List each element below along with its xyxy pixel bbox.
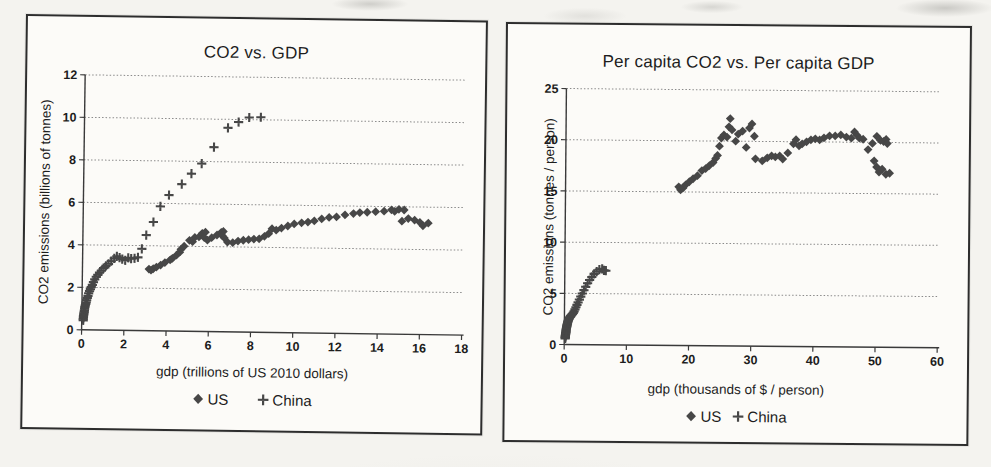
data-point	[303, 218, 312, 227]
y-tick-label: 4	[68, 238, 75, 252]
gridline	[82, 287, 462, 292]
y-tick-label: 0	[67, 323, 74, 337]
data-point	[164, 190, 173, 199]
data-point	[363, 208, 372, 217]
x-tick-label: 8	[247, 339, 254, 353]
x-tick-label: 14	[370, 341, 384, 355]
data-point	[177, 179, 186, 188]
gridline	[565, 242, 938, 245]
x-tick-label: 30	[744, 353, 758, 367]
x-tick-label: 2	[120, 337, 127, 351]
legend-item-us: US	[191, 390, 228, 408]
data-point	[380, 207, 389, 216]
data-point	[325, 213, 334, 222]
us-diamond-marker-icon	[192, 392, 205, 405]
x-tick-label: 4	[162, 338, 169, 352]
gridline	[565, 293, 938, 296]
y-tick-label: 6	[68, 196, 75, 210]
legend-label-china: China	[272, 391, 311, 409]
x-axis	[564, 345, 939, 348]
gridline	[84, 160, 464, 165]
x-tick-label: 10	[619, 352, 633, 366]
y-tick-label: 25	[544, 82, 558, 96]
data-point	[245, 113, 254, 122]
data-point	[341, 210, 350, 219]
y-tick-label: 8	[69, 153, 76, 167]
y-tick-label: 10	[63, 111, 77, 125]
y-tick-label: 10	[543, 235, 557, 249]
x-tick-label: 20	[681, 353, 695, 367]
gridline	[566, 191, 939, 194]
data-point	[197, 159, 206, 168]
gridline	[85, 117, 465, 122]
data-point	[332, 212, 341, 221]
series-china	[561, 264, 611, 343]
data-point	[400, 206, 409, 215]
x-tick-label: 50	[868, 354, 882, 368]
gridline	[566, 89, 939, 92]
y-axis	[564, 89, 566, 345]
series-us	[674, 114, 894, 196]
legend-label-us: US	[207, 391, 228, 408]
y-tick-label: 15	[544, 184, 558, 198]
x-tick-label: 60	[930, 355, 944, 369]
y-tick-label: 0	[549, 338, 556, 352]
x-tick-label: 16	[412, 341, 426, 355]
data-point	[187, 169, 196, 178]
gridline	[83, 202, 463, 207]
x-axis	[82, 330, 464, 335]
co2-vs-gdp-chart: CO2 vs. GDP CO2 emissions (billions of t…	[20, 14, 488, 435]
per-capita-co2-vs-gdp-chart: Per capita CO2 vs. Per capita GDP CO2 em…	[502, 22, 972, 446]
data-point	[209, 143, 218, 152]
legend-item-us: US	[684, 408, 721, 425]
data-point	[731, 137, 740, 146]
x-tick-label: 10	[285, 340, 299, 354]
data-point	[751, 154, 760, 163]
us-diamond-marker-icon	[684, 410, 697, 423]
data-point	[223, 123, 232, 132]
legend-label-china: China	[747, 408, 786, 425]
tick-labels: 024681012141618024681012	[59, 68, 472, 356]
gridlines	[82, 75, 465, 293]
data-point	[715, 142, 724, 151]
data-point	[317, 214, 326, 223]
data-point	[750, 132, 759, 141]
x-tick-label: 0	[561, 351, 568, 365]
y-tick-label: 2	[67, 281, 74, 295]
series-china	[79, 110, 266, 327]
x-tick-label: 12	[328, 340, 342, 354]
data-point	[137, 244, 146, 253]
data-point	[310, 216, 319, 225]
x-tick-label: 18	[454, 342, 468, 356]
china-plus-marker-icon	[256, 393, 269, 406]
china-plus-marker-icon	[731, 410, 744, 423]
data-point	[371, 207, 380, 216]
data-point	[149, 217, 158, 226]
data-point	[726, 114, 735, 123]
series-us	[144, 201, 432, 278]
tick-labels: 01020304050600510152025	[542, 82, 946, 369]
scanned-worksheet-page: CO2 vs. GDP CO2 emissions (billions of t…	[0, 0, 991, 467]
legend-label-us: US	[700, 408, 721, 425]
data-point	[742, 143, 751, 152]
data-point	[783, 148, 792, 157]
y-tick-label: 20	[544, 133, 558, 147]
x-tick-label: 0	[78, 337, 85, 351]
legend-item-china: China	[731, 408, 786, 425]
data-point	[256, 113, 265, 122]
axes	[77, 75, 468, 340]
x-tick-label: 6	[204, 339, 211, 353]
x-tick-label: 40	[806, 354, 820, 368]
data-point	[234, 117, 243, 126]
y-tick-label: 12	[63, 68, 77, 82]
legend-item-china: China	[256, 391, 311, 409]
data-point	[142, 230, 151, 239]
gridline	[85, 75, 465, 80]
data-point	[355, 208, 364, 217]
y-tick-label: 5	[550, 287, 557, 301]
